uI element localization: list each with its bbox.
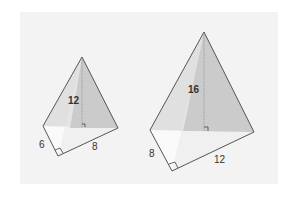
diagram-canvas: 12 6 8 16 8 12	[0, 0, 296, 197]
height-label: 12	[68, 95, 80, 106]
base-leg1-label: 8	[149, 148, 155, 159]
base-leg2-label: 8	[92, 141, 98, 152]
height-label: 16	[188, 84, 200, 95]
base-leg1-label: 6	[39, 139, 45, 150]
base-leg2-label: 12	[214, 154, 226, 165]
